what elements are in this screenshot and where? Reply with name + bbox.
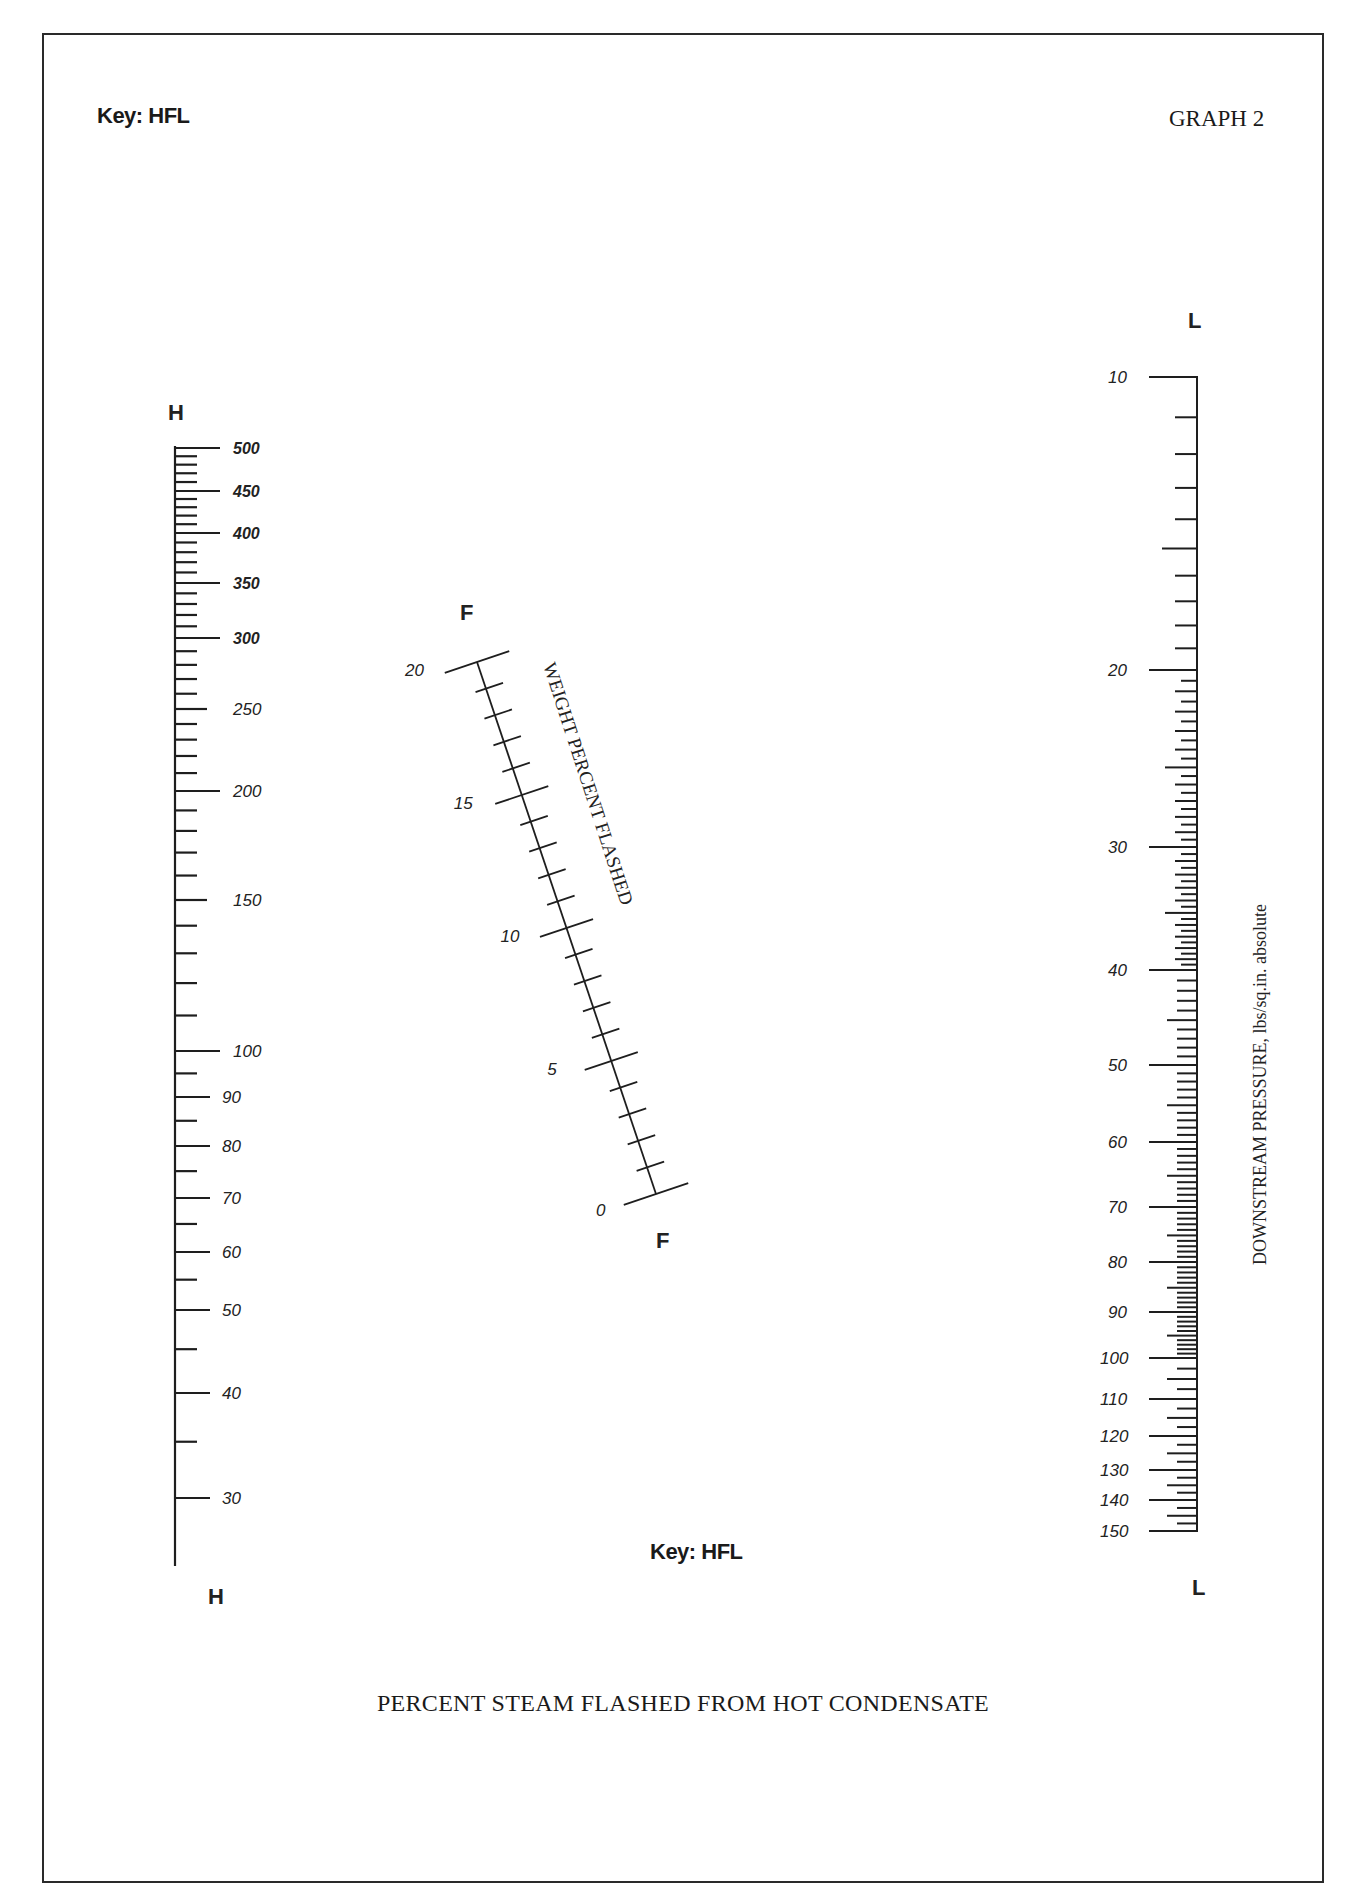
scale-tick-label: 60 — [1108, 1133, 1127, 1152]
scale-tick-label: 20 — [1107, 661, 1127, 680]
scale-tick-label: 500 — [233, 440, 260, 457]
scale-tick-label: 15 — [454, 794, 473, 813]
l-letter-bottom: L — [1192, 1575, 1205, 1600]
scale-tick-label: 100 — [233, 1042, 262, 1061]
scale-tick-label: 40 — [222, 1384, 241, 1403]
f-letter-bottom: F — [656, 1228, 669, 1253]
scale-tick-label: 20 — [404, 661, 424, 680]
l-scale-title: DOWNSTREAM PRESSURE, lbs/sq.in. absolute — [1250, 904, 1270, 1265]
scale-tick-label: 150 — [233, 891, 262, 910]
scale-tick-label: 140 — [1100, 1491, 1129, 1510]
scale-tick-label: 80 — [222, 1137, 241, 1156]
scale-tick-label: 90 — [1108, 1303, 1127, 1322]
h-scale-labels: 5004504003503002502001501009080706050403… — [222, 440, 262, 1508]
scale-tick-label: 30 — [1108, 838, 1127, 857]
scale-tick-label: 120 — [1100, 1427, 1129, 1446]
scale-tick-label: 200 — [232, 782, 262, 801]
scale-tick-label: 350 — [233, 575, 260, 592]
scale-tick-label: 100 — [1100, 1349, 1129, 1368]
scale-tick-label: 90 — [222, 1088, 241, 1107]
scale-tick-label: 70 — [222, 1189, 241, 1208]
scale-tick-label: 150 — [1100, 1522, 1129, 1541]
scale-tick-label: 60 — [222, 1243, 241, 1262]
scale-tick-label: 10 — [1108, 368, 1127, 387]
scale-tick-label: 400 — [232, 525, 260, 542]
scale-tick-label: 10 — [501, 927, 520, 946]
l-letter-top: L — [1188, 308, 1201, 333]
l-scale-labels: 102030405060708090100110120130140150 — [1100, 368, 1129, 1541]
scale-tick-label: 130 — [1100, 1461, 1129, 1480]
h-letter-bottom: H — [208, 1584, 224, 1609]
f-letter-top: F — [460, 600, 473, 625]
l-scale — [1149, 376, 1197, 1532]
scale-tick-label: 450 — [232, 483, 260, 500]
scale-tick-label: 80 — [1108, 1253, 1127, 1272]
figure-caption: PERCENT STEAM FLASHED FROM HOT CONDENSAT… — [0, 1690, 1366, 1717]
scale-tick-label: 50 — [1108, 1056, 1127, 1075]
scale-tick-label: 30 — [222, 1489, 241, 1508]
scale-tick-label: 40 — [1108, 961, 1127, 980]
scale-tick-label: 110 — [1100, 1390, 1128, 1409]
scale-tick-label: 50 — [222, 1301, 241, 1320]
f-scale-title: WEIGHT PERCENT FLASHED — [539, 660, 637, 908]
scale-tick-label: 0 — [596, 1201, 606, 1220]
h-letter-top: H — [168, 400, 184, 425]
scale-tick-label: 70 — [1108, 1198, 1127, 1217]
scale-tick-label: 250 — [232, 700, 262, 719]
key-label-bottom: Key: HFL — [650, 1539, 743, 1565]
h-scale — [175, 446, 220, 1566]
scale-tick-label: 5 — [547, 1060, 557, 1079]
scale-tick-label: 300 — [233, 630, 260, 647]
